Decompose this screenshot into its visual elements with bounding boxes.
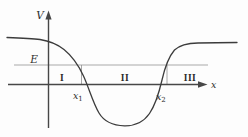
x2-subscript: 2 bbox=[161, 96, 165, 104]
energy-label: E bbox=[29, 53, 38, 65]
right-arrowhead-icon bbox=[198, 81, 208, 87]
potential-well-figure: V E x I II III x1 x2 bbox=[0, 0, 248, 137]
x-axis-label: x bbox=[211, 79, 217, 90]
region-label-1: I bbox=[60, 73, 64, 83]
x1-subscript: 1 bbox=[78, 95, 82, 103]
region-label-3: III bbox=[184, 73, 197, 83]
x2-point-label: x2 bbox=[156, 91, 166, 105]
up-arrowhead-icon bbox=[45, 11, 51, 20]
region-label-2: II bbox=[121, 73, 129, 83]
x1-point-label: x1 bbox=[73, 90, 83, 104]
v-axis-label: V bbox=[36, 9, 45, 21]
diagram-canvas: V E x I II III x1 x2 bbox=[0, 0, 248, 137]
